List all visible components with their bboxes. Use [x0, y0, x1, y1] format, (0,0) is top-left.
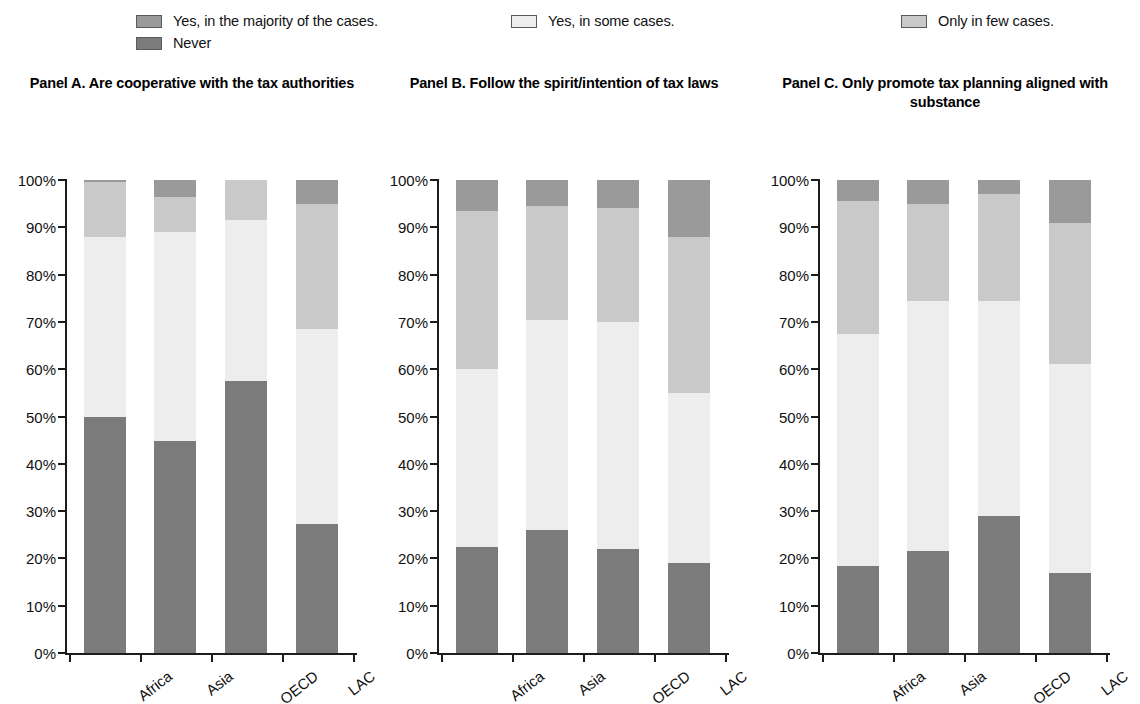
bar-segment[interactable]	[154, 197, 196, 232]
x-axis-tick	[353, 654, 355, 662]
bar-segment[interactable]	[456, 180, 498, 211]
bar-asia[interactable]: Asia	[526, 180, 568, 653]
y-axis-tick	[430, 463, 438, 465]
legend-label-never: Never	[173, 36, 211, 51]
bar-segment[interactable]	[907, 301, 949, 552]
bar-segment[interactable]	[837, 334, 879, 566]
bar-lac[interactable]: LAC	[1049, 180, 1091, 653]
y-axis-tick	[811, 416, 819, 418]
y-axis-tick	[430, 179, 438, 181]
bar-segment[interactable]	[526, 206, 568, 320]
bar-segment[interactable]	[526, 180, 568, 206]
bar-segment[interactable]	[907, 551, 949, 653]
y-axis-tick-label: 70%	[26, 314, 56, 329]
bar-africa[interactable]: Africa	[456, 180, 498, 653]
bar-segment[interactable]	[1049, 573, 1091, 653]
bar-segment[interactable]	[296, 204, 338, 329]
panel-b: Panel B. Follow the spirit/intention of …	[372, 74, 752, 704]
bar-segment[interactable]	[978, 301, 1020, 516]
bar-asia[interactable]: Asia	[907, 180, 949, 653]
y-axis-tick-label: 40%	[398, 456, 428, 471]
legend-label-majority: Yes, in the majority of the cases.	[173, 14, 378, 29]
bar-segment[interactable]	[668, 180, 710, 237]
y-axis-tick	[430, 416, 438, 418]
bar-segment[interactable]	[1049, 364, 1091, 572]
y-axis-tick-label: 60%	[398, 362, 428, 377]
bar-segment[interactable]	[978, 180, 1020, 194]
bar-segment[interactable]	[668, 393, 710, 563]
y-axis-tick-label: 50%	[398, 409, 428, 424]
bar-segment[interactable]	[456, 547, 498, 653]
bar-oecd[interactable]: OECD	[978, 180, 1020, 653]
y-axis-tick-label: 20%	[398, 551, 428, 566]
bar-segment[interactable]	[597, 322, 639, 549]
y-axis-tick-label: 90%	[779, 220, 809, 235]
bar-segment[interactable]	[225, 180, 267, 220]
bar-segment[interactable]	[526, 320, 568, 530]
x-axis-label-oecd: OECD	[1030, 668, 1073, 704]
bar-segment[interactable]	[225, 381, 267, 653]
bar-segment[interactable]	[597, 549, 639, 653]
bar-lac[interactable]: LAC	[296, 180, 338, 653]
bar-segment[interactable]	[978, 516, 1020, 653]
y-axis-tick-label: 100%	[390, 173, 428, 188]
bar-segment[interactable]	[1049, 180, 1091, 223]
bar-segment[interactable]	[837, 566, 879, 654]
bar-segment[interactable]	[907, 204, 949, 301]
y-axis-tick	[811, 510, 819, 512]
y-axis-tick	[430, 557, 438, 559]
bar-segment[interactable]	[296, 180, 338, 204]
bar-segment[interactable]	[84, 182, 126, 236]
bar-segment[interactable]	[84, 237, 126, 418]
bar-segment[interactable]	[296, 329, 338, 524]
bar-segment[interactable]	[597, 180, 639, 208]
bar-segment[interactable]	[154, 232, 196, 441]
bar-segment[interactable]	[84, 417, 126, 653]
y-axis-tick	[430, 321, 438, 323]
bar-segment[interactable]	[837, 180, 879, 201]
y-axis-tick	[811, 179, 819, 181]
bar-segment[interactable]	[1049, 223, 1091, 365]
bar-segment[interactable]	[837, 201, 879, 333]
x-axis-label-africa: Africa	[135, 668, 174, 703]
legend-label-some: Yes, in some cases.	[548, 14, 675, 29]
panel-c-title: Panel C. Only promote tax planning align…	[769, 74, 1121, 112]
x-axis-tick	[512, 654, 514, 662]
y-axis-tick-label: 90%	[26, 220, 56, 235]
bar-segment[interactable]	[668, 237, 710, 393]
bar-segment[interactable]	[978, 194, 1020, 300]
bar-segment[interactable]	[597, 208, 639, 322]
bar-segment[interactable]	[296, 524, 338, 653]
bar-asia[interactable]: Asia	[154, 180, 196, 653]
bar-segment[interactable]	[154, 180, 196, 197]
bar-africa[interactable]: Africa	[837, 180, 879, 653]
bar-segment[interactable]	[456, 211, 498, 369]
y-axis-tick	[58, 226, 66, 228]
y-axis-tick-label: 30%	[26, 504, 56, 519]
y-axis-tick	[430, 368, 438, 370]
y-axis-tick	[811, 605, 819, 607]
y-axis-tick-label: 90%	[398, 220, 428, 235]
x-axis-tick	[1106, 654, 1108, 662]
x-axis-tick	[725, 654, 727, 662]
x-axis-tick	[1035, 654, 1037, 662]
bar-segment[interactable]	[225, 220, 267, 380]
legend-entry-majority: Yes, in the majority of the cases.	[136, 14, 378, 29]
legend-entry-few: Only in few cases.	[901, 14, 1054, 29]
bar-segment[interactable]	[456, 369, 498, 546]
panel-c-plot: 0%10%20%30%40%50%60%70%80%90%100%AfricaA…	[818, 180, 1110, 653]
y-axis-tick	[58, 274, 66, 276]
bar-segment[interactable]	[154, 441, 196, 653]
panel-a-title: Panel A. Are cooperative with the tax au…	[16, 74, 368, 93]
x-axis-label-lac: LAC	[717, 668, 749, 698]
bar-segment[interactable]	[668, 563, 710, 653]
bar-africa[interactable]: Africa	[84, 180, 126, 653]
y-axis-tick	[811, 368, 819, 370]
bar-segment[interactable]	[526, 530, 568, 653]
bar-oecd[interactable]: OECD	[597, 180, 639, 653]
y-axis-tick	[430, 652, 438, 654]
bar-lac[interactable]: LAC	[668, 180, 710, 653]
bar-oecd[interactable]: OECD	[225, 180, 267, 653]
bar-segment[interactable]	[907, 180, 949, 204]
y-axis-tick-label: 30%	[779, 504, 809, 519]
